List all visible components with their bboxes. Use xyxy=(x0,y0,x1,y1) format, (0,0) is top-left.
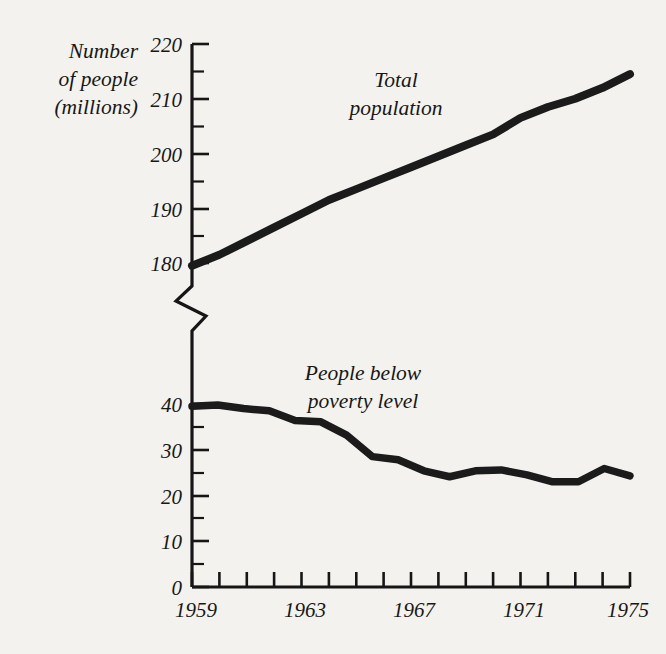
upper-y-label-190: 190 xyxy=(151,198,183,222)
x-axis-label-1975: 1975 xyxy=(607,598,649,622)
upper-y-label-180: 180 xyxy=(151,252,183,276)
x-axis-label-1959: 1959 xyxy=(175,598,218,622)
annotation-total-population-line-1: Total xyxy=(374,68,417,92)
y-axis-title-line-1: Number xyxy=(68,39,139,63)
x-axis-ticks xyxy=(192,572,630,587)
lower-y-label-30: 30 xyxy=(160,439,183,463)
y-axis-title-line-2: of people xyxy=(59,67,139,91)
lower-y-label-20: 20 xyxy=(161,485,183,509)
x-axis-label-1967: 1967 xyxy=(393,598,437,622)
lower-y-label-40: 40 xyxy=(161,393,183,417)
upper-y-label-220: 220 xyxy=(151,33,183,57)
poverty-population-chart: Number of people (millions) 220 210 200 … xyxy=(0,0,666,654)
x-axis-label-1971: 1971 xyxy=(503,598,545,622)
annotation-poverty-line-2: poverty level xyxy=(306,389,418,413)
series-line-poverty xyxy=(192,405,630,482)
x-axis-label-1963: 1963 xyxy=(284,598,326,622)
annotation-poverty-line-1: People below xyxy=(304,361,422,385)
annotation-total-population-line-2: population xyxy=(347,96,442,120)
y-axis-break-zigzag xyxy=(176,272,206,345)
lower-y-label-10: 10 xyxy=(161,530,183,554)
chart-container: Number of people (millions) 220 210 200 … xyxy=(0,0,666,654)
upper-y-label-200: 200 xyxy=(151,143,183,167)
y-axis-title-line-3: (millions) xyxy=(54,95,138,119)
lower-y-label-0: 0 xyxy=(172,576,183,600)
upper-y-label-210: 210 xyxy=(151,88,183,112)
